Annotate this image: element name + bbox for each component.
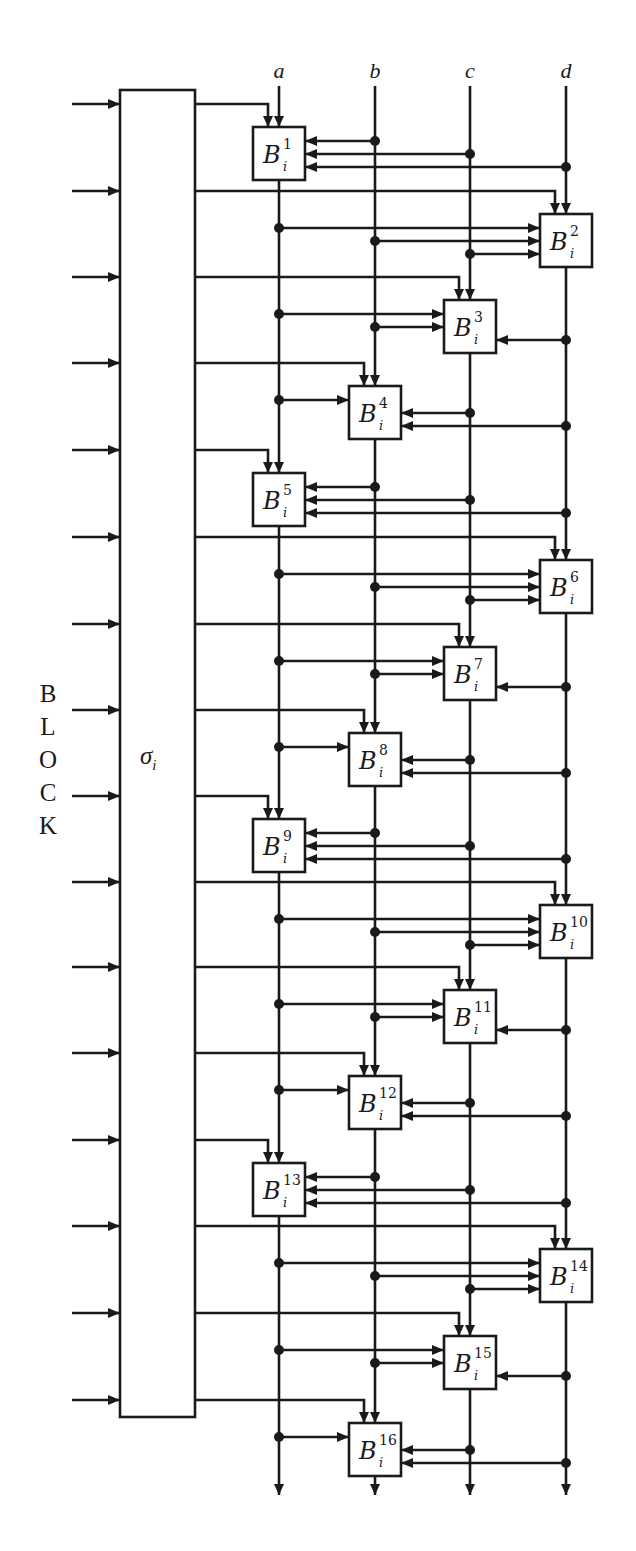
arrow-right-icon bbox=[432, 669, 444, 679]
arrow-down-icon bbox=[263, 1152, 273, 1163]
arrow-right-icon bbox=[108, 619, 120, 629]
block-letter: B bbox=[38, 681, 58, 706]
arrow-left-icon bbox=[305, 1198, 317, 1208]
junction-dot bbox=[274, 1432, 284, 1442]
block-subscript: i bbox=[570, 246, 574, 261]
block-subscript: i bbox=[379, 1108, 383, 1123]
junction-dot bbox=[370, 322, 380, 332]
column-label-a: a bbox=[274, 58, 285, 84]
junction-dot bbox=[274, 999, 284, 1009]
arrow-right-icon bbox=[528, 236, 540, 246]
arrow-right-icon bbox=[337, 1432, 349, 1442]
junction-dot bbox=[274, 656, 284, 666]
junction-dot bbox=[561, 162, 571, 172]
junction-dot bbox=[274, 223, 284, 233]
block-label: B bbox=[453, 1004, 472, 1032]
arrow-left-icon bbox=[305, 482, 317, 492]
key-line-5 bbox=[195, 450, 268, 473]
block-subscript: i bbox=[283, 505, 287, 520]
block-superscript: 13 bbox=[283, 1172, 301, 1188]
key-line-11 bbox=[195, 967, 459, 990]
junction-dot bbox=[370, 669, 380, 679]
arrow-right-icon bbox=[528, 582, 540, 592]
junction-dot bbox=[465, 755, 475, 765]
block-label: B bbox=[262, 487, 281, 515]
arrow-down-icon bbox=[370, 1412, 380, 1423]
block-superscript: 2 bbox=[570, 223, 579, 239]
arrow-right-icon bbox=[108, 1048, 120, 1058]
column-label-b: b bbox=[370, 58, 381, 84]
arrow-right-icon bbox=[528, 1258, 540, 1268]
block-superscript: 14 bbox=[570, 1258, 588, 1274]
arrow-left-icon bbox=[305, 854, 317, 864]
column-label-d: d bbox=[561, 58, 572, 84]
arrow-left-icon bbox=[305, 149, 317, 159]
arrow-right-icon bbox=[108, 705, 120, 715]
block-letter: O bbox=[38, 747, 58, 772]
arrow-down-icon bbox=[370, 1484, 380, 1495]
arrow-right-icon bbox=[528, 1271, 540, 1281]
arrow-right-icon bbox=[108, 186, 120, 196]
junction-dot bbox=[561, 1371, 571, 1381]
block-superscript: 7 bbox=[474, 656, 483, 672]
arrow-down-icon bbox=[359, 722, 369, 733]
junction-dot bbox=[370, 482, 380, 492]
block-superscript: 9 bbox=[283, 828, 292, 844]
arrow-down-icon bbox=[274, 116, 284, 127]
arrow-down-icon bbox=[263, 808, 273, 819]
block-label: B bbox=[358, 1437, 377, 1465]
junction-dot bbox=[370, 1271, 380, 1281]
block-subscript: i bbox=[570, 592, 574, 607]
block-subscript: i bbox=[283, 1195, 287, 1210]
junction-dot bbox=[561, 682, 571, 692]
block-superscript: 1 bbox=[283, 136, 292, 152]
arrow-left-icon bbox=[496, 682, 508, 692]
arrow-right-icon bbox=[108, 1395, 120, 1405]
block-label: B bbox=[262, 1177, 281, 1205]
block-label: B bbox=[453, 661, 472, 689]
block-subscript: i bbox=[474, 332, 478, 347]
junction-dot bbox=[465, 1284, 475, 1294]
block-superscript: 5 bbox=[283, 482, 292, 498]
arrow-left-icon bbox=[496, 1371, 508, 1381]
junction-dot bbox=[274, 309, 284, 319]
arrow-right-icon bbox=[108, 272, 120, 282]
column-label-c: c bbox=[465, 58, 475, 84]
arrow-left-icon bbox=[496, 1025, 508, 1035]
junction-dot bbox=[370, 136, 380, 146]
arrow-down-icon bbox=[561, 1238, 571, 1249]
arrow-down-icon bbox=[550, 203, 560, 214]
arrow-right-icon bbox=[432, 1358, 444, 1368]
block-label: B bbox=[358, 1090, 377, 1118]
junction-dot bbox=[465, 249, 475, 259]
arrow-right-icon bbox=[108, 877, 120, 887]
block-letter: K bbox=[38, 813, 58, 838]
arrow-right-icon bbox=[108, 99, 120, 109]
arrow-left-icon bbox=[401, 408, 413, 418]
arrow-down-icon bbox=[370, 1065, 380, 1076]
block-superscript: 16 bbox=[379, 1432, 397, 1448]
junction-dot bbox=[370, 828, 380, 838]
block-label: B bbox=[549, 228, 568, 256]
junction-dot bbox=[561, 1025, 571, 1035]
arrow-right-icon bbox=[108, 358, 120, 368]
junction-dot bbox=[274, 1345, 284, 1355]
block-subscript: i bbox=[570, 937, 574, 952]
arrow-left-icon bbox=[305, 495, 317, 505]
arrow-right-icon bbox=[432, 322, 444, 332]
arrow-down-icon bbox=[274, 808, 284, 819]
arrow-down-icon bbox=[561, 894, 571, 905]
arrow-down-icon bbox=[561, 1484, 571, 1495]
diagram-canvas: B1iB2iB3iB4iB5iB6iB7iB8iB9iB10iB11iB12iB… bbox=[0, 0, 636, 1551]
arrow-down-icon bbox=[465, 636, 475, 647]
junction-dot bbox=[465, 595, 475, 605]
arrow-right-icon bbox=[528, 569, 540, 579]
block-superscript: 6 bbox=[570, 569, 579, 585]
arrow-down-icon bbox=[454, 1325, 464, 1336]
junction-dot bbox=[465, 1445, 475, 1455]
sigma-subscript: i bbox=[152, 757, 156, 773]
junction-dot bbox=[561, 1198, 571, 1208]
arrow-right-icon bbox=[432, 999, 444, 1009]
block-superscript: 11 bbox=[474, 999, 492, 1015]
block-label: B bbox=[453, 1350, 472, 1378]
